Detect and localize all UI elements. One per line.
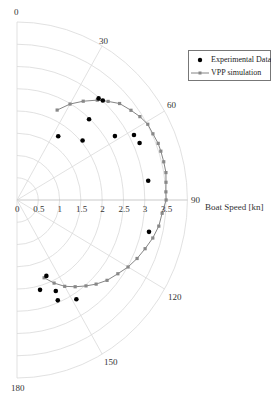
vpp-marker <box>118 102 121 105</box>
line-square-marker-icon <box>191 67 209 79</box>
vpp-line <box>44 100 166 287</box>
vpp-marker <box>68 102 71 105</box>
angle-tick-label: 30 <box>99 37 108 46</box>
angle-tick-label: 90 <box>191 196 200 205</box>
vpp-marker <box>151 236 154 239</box>
vpp-marker <box>164 190 167 193</box>
experimental-marker <box>44 274 49 279</box>
vpp-marker <box>84 284 87 287</box>
legend-item-experimental: Experimental Data <box>189 54 270 66</box>
experimental-marker <box>146 178 151 183</box>
experimental-marker <box>54 289 59 294</box>
vpp-marker <box>138 115 141 118</box>
vpp-marker <box>143 247 146 250</box>
angle-gridline <box>17 111 165 200</box>
vpp-marker <box>157 142 160 145</box>
legend-item-vpp: VPP simulation <box>189 67 270 79</box>
angle-gridline <box>17 46 102 200</box>
vpp-marker <box>157 225 160 228</box>
legend-label: VPP simulation <box>211 68 261 77</box>
vpp-marker <box>146 123 149 126</box>
experimental-marker <box>100 98 105 103</box>
radial-tick-label: 2.5 <box>119 205 130 214</box>
experimental-marker <box>137 141 142 146</box>
experimental-marker <box>132 133 137 138</box>
vpp-marker <box>164 171 167 174</box>
experimental-marker <box>87 117 92 122</box>
experimental-marker <box>74 297 79 302</box>
vpp-marker <box>56 108 59 111</box>
vpp-marker <box>95 283 98 286</box>
radial-tick-label: 3 <box>143 205 148 214</box>
angle-tick-label: 60 <box>167 101 176 110</box>
radial-tick-label: 3.5 <box>161 205 172 214</box>
experimental-marker <box>113 134 118 139</box>
vpp-marker <box>74 285 77 288</box>
angle-tick-label: 180 <box>11 384 25 393</box>
radial-tick-label: 1 <box>58 205 63 214</box>
angle-tick-label: 0 <box>14 8 19 17</box>
legend: Experimental Data VPP simulation <box>188 50 271 81</box>
angle-tick-label: 150 <box>104 358 118 367</box>
angle-gridline <box>17 200 102 354</box>
angle-tick-label: 120 <box>168 293 182 302</box>
vpp-marker <box>129 109 132 112</box>
radial-tick-label: 1.5 <box>76 205 87 214</box>
vpp-marker <box>52 281 55 284</box>
experimental-marker <box>56 134 61 139</box>
radial-tick-label: 0.5 <box>33 205 44 214</box>
vpp-marker <box>162 160 165 163</box>
vpp-simulation-series <box>43 99 168 289</box>
experimental-marker <box>55 298 60 303</box>
experimental-marker <box>96 96 101 101</box>
radial-axis-title: Boat Speed [kn] <box>205 203 264 212</box>
vpp-marker <box>116 272 119 275</box>
legend-label: Experimental Data <box>211 55 271 64</box>
experimental-marker <box>147 230 152 235</box>
vpp-marker <box>82 100 85 103</box>
radial-tick-label: 0 <box>15 205 20 214</box>
vpp-marker <box>164 181 167 184</box>
experimental-marker <box>80 138 85 143</box>
vpp-marker <box>135 257 138 260</box>
vpp-marker <box>126 265 129 268</box>
filled-circle-marker-icon <box>191 54 209 66</box>
vpp-marker <box>63 285 66 288</box>
radial-tick-label: 2 <box>100 205 105 214</box>
vpp-marker <box>107 100 110 103</box>
vpp-marker <box>165 198 168 201</box>
vpp-marker <box>151 132 154 135</box>
polar-grid <box>17 22 187 378</box>
vpp-marker <box>105 279 108 282</box>
vpp-marker <box>159 150 162 153</box>
experimental-data-series <box>38 96 152 303</box>
experimental-marker <box>38 288 43 293</box>
